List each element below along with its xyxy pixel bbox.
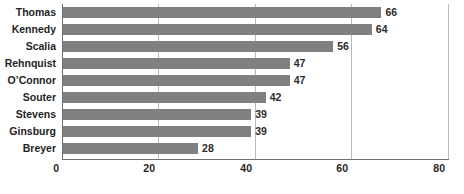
x-tick-label-80: 80 [433,162,448,174]
x-tick-label-40: 40 [240,162,255,174]
category-label: Stevens [0,107,56,122]
bar-value-label: 47 [294,73,306,88]
bar [63,58,290,69]
bar-value-label: 39 [255,124,267,139]
category-label: Thomas [0,5,56,20]
category-label: Souter [0,90,56,105]
category-label: Breyer [0,141,56,156]
bar-row: 47 [63,56,464,72]
x-axis-line [62,159,449,160]
bar-row: 66 [63,5,464,21]
category-label: Scalia [0,39,56,54]
x-tick-label-0: 0 [53,162,62,174]
category-label: O’Connor [0,73,56,88]
x-tick-label-20: 20 [143,162,158,174]
bar [63,24,372,35]
bar-value-label: 42 [270,90,282,105]
bar-row: 64 [63,22,464,38]
bar-value-label: 47 [294,56,306,71]
bar-chart: Thomas Kennedy Scalia Rehnquist O’Connor… [0,0,464,194]
bar-value-label: 66 [385,5,397,20]
bar [63,41,333,52]
bar [63,126,251,137]
x-tick-label-60: 60 [336,162,351,174]
bar [63,109,251,120]
bar [63,75,290,86]
category-label: Kennedy [0,22,56,37]
bar-row: 47 [63,73,464,89]
bar-row: 56 [63,39,464,55]
bar [63,92,266,103]
bar-value-label: 64 [376,22,388,37]
category-label: Rehnquist [0,56,56,71]
bar [63,143,198,154]
bar-row: 28 [63,141,464,157]
bar-value-label: 39 [255,107,267,122]
bar-row: 39 [63,107,464,123]
bar [63,7,381,18]
category-label: Ginsburg [0,124,56,139]
bar-row: 39 [63,124,464,140]
bar-row: 42 [63,90,464,106]
bar-value-label: 56 [337,39,349,54]
bar-value-label: 28 [202,141,214,156]
